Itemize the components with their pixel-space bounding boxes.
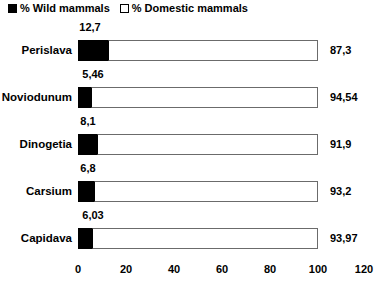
bar-segment-domestic-carsium xyxy=(94,181,318,202)
x-tick-20: 20 xyxy=(120,262,132,276)
stacked-bar-perislava xyxy=(78,40,318,61)
x-tick-0: 0 xyxy=(75,262,81,276)
value-label-wild-carsium: 6,8 xyxy=(80,161,95,175)
value-label-wild-noviodunum: 5,46 xyxy=(82,67,103,81)
bar-segment-domestic-dinogetia xyxy=(97,134,318,155)
value-label-wild-perislava: 12,7 xyxy=(79,20,100,34)
bar-segment-wild-capidava xyxy=(78,228,92,249)
value-label-domestic-perislava: 87,3 xyxy=(330,40,351,61)
bar-segment-domestic-capidava xyxy=(92,228,318,249)
bar-row-dinogetia: Dinogetia 8,1 91,9 xyxy=(0,112,378,157)
x-tick-60: 60 xyxy=(216,262,228,276)
category-label-carsium: Carsium xyxy=(0,181,72,201)
bar-segment-wild-dinogetia xyxy=(78,134,97,155)
bar-segment-wild-perislava xyxy=(78,40,108,61)
stacked-bar-carsium xyxy=(78,181,318,202)
bar-row-noviodunum: Noviodunum 5,46 94,54 xyxy=(0,65,378,110)
value-label-wild-capidava: 6,03 xyxy=(82,208,103,222)
category-label-noviodunum: Noviodunum xyxy=(0,87,72,107)
value-label-domestic-noviodunum: 94,54 xyxy=(330,87,358,108)
value-label-wild-dinogetia: 8,1 xyxy=(80,114,95,128)
bar-row-perislava: Perislava 12,7 87,3 xyxy=(0,18,378,63)
x-tick-100: 100 xyxy=(309,262,327,276)
value-label-domestic-carsium: 93,2 xyxy=(330,181,351,202)
value-label-domestic-dinogetia: 91,9 xyxy=(330,134,351,155)
x-tick-80: 80 xyxy=(264,262,276,276)
value-label-domestic-capidava: 93,97 xyxy=(330,228,358,249)
category-label-capidava: Capidava xyxy=(0,228,72,248)
category-label-perislava: Perislava xyxy=(0,40,72,60)
bar-segment-domestic-noviodunum xyxy=(91,87,318,108)
x-tick-120: 120 xyxy=(355,262,373,276)
stacked-bar-noviodunum xyxy=(78,87,318,108)
category-label-dinogetia: Dinogetia xyxy=(0,134,72,154)
bar-row-carsium: Carsium 6,8 93,2 xyxy=(0,159,378,204)
bar-segment-wild-carsium xyxy=(78,181,94,202)
stacked-bar-chart: % Wild mammals % Domestic mammals Perisl… xyxy=(0,0,378,290)
stacked-bar-dinogetia xyxy=(78,134,318,155)
x-tick-40: 40 xyxy=(168,262,180,276)
bar-segment-wild-noviodunum xyxy=(78,87,91,108)
bar-row-capidava: Capidava 6,03 93,97 xyxy=(0,206,378,251)
stacked-bar-capidava xyxy=(78,228,318,249)
bar-segment-domestic-perislava xyxy=(108,40,318,61)
plot-area: Perislava 12,7 87,3 Noviodunum 5,46 94,5… xyxy=(0,0,378,290)
x-axis: 0 20 40 60 80 100 120 xyxy=(0,262,378,282)
